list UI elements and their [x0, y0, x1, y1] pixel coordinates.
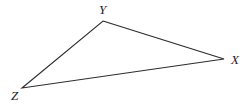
triangle-figure: Y X Z: [0, 0, 251, 110]
triangle-outline: [22, 21, 224, 88]
triangle-diagram: [0, 0, 251, 110]
vertex-label-x: X: [231, 53, 239, 66]
vertex-label-z: Z: [11, 89, 18, 102]
vertex-label-y: Y: [99, 3, 106, 16]
